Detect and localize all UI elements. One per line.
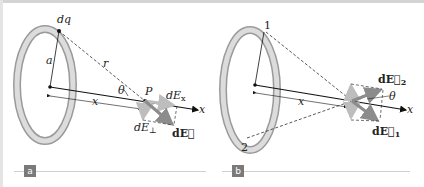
divider-b <box>222 171 410 172</box>
label-x-distance: x <box>298 96 304 107</box>
label-theta: θ <box>118 85 125 96</box>
label-r: r <box>103 58 108 69</box>
label-dEperp: dE⊥ <box>134 122 157 135</box>
divider-a <box>14 171 206 172</box>
label-x-axis: x <box>199 104 205 115</box>
panel-badge-b: b <box>232 165 244 177</box>
label-a: a <box>46 55 53 66</box>
label-x-distance: x <box>92 96 98 107</box>
panel-badge-a: a <box>24 165 36 177</box>
label-dEx: dEx <box>166 90 186 103</box>
label-dE1: dE⃗1 <box>372 126 400 138</box>
panel-a: dq a r θ P x dEx x dE⊥ dE⃗ a <box>0 0 212 187</box>
label-dq: dq <box>57 14 71 25</box>
panel-b: 1 2 x θ dE⃗2 dE⃗1 x b <box>212 0 424 187</box>
label-theta: θ <box>389 91 396 102</box>
label-dE2: dE⃗2 <box>378 74 406 86</box>
label-point-1: 1 <box>264 20 271 31</box>
label-point-2: 2 <box>241 142 248 153</box>
label-dE-vector: dE⃗ <box>172 128 195 139</box>
label-P: P <box>145 86 152 97</box>
label-x-axis: x <box>407 104 413 115</box>
